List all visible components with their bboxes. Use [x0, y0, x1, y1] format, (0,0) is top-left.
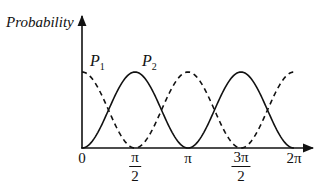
- p1-curve: [82, 72, 294, 148]
- p2-label-main: P: [142, 52, 152, 69]
- x-tick-pi: π: [184, 150, 192, 167]
- p2-label: P2: [142, 52, 157, 72]
- y-axis-label: Probability: [6, 14, 74, 31]
- p1-label-main: P: [90, 52, 100, 69]
- x-tick-pi-over-2: π2: [129, 150, 141, 184]
- x-tick-0: 0: [78, 150, 86, 167]
- p2-label-sub: 2: [152, 61, 157, 72]
- tick-numerator: π: [129, 150, 141, 167]
- p1-label-sub: 1: [100, 61, 105, 72]
- p1-label: P1: [90, 52, 105, 72]
- x-tick-3pi-over-2: 3π2: [231, 150, 250, 184]
- x-tick-2pi: 2π: [286, 150, 301, 167]
- tick-denominator: 2: [131, 167, 139, 184]
- p2-curve: [82, 72, 294, 148]
- tick-denominator: 2: [237, 167, 245, 184]
- tick-numerator: 3π: [231, 150, 250, 167]
